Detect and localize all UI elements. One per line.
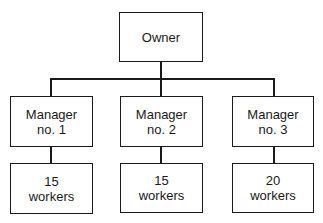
workers-3-connector bbox=[273, 146, 275, 164]
workers-3-count: 20 bbox=[266, 173, 280, 188]
workers-1-count: 15 bbox=[44, 174, 58, 189]
manager-1-number: no. 1 bbox=[37, 122, 66, 137]
manager-bus-line bbox=[50, 78, 274, 80]
workers-2-count: 15 bbox=[154, 173, 168, 188]
manager-3-box: Manager no. 3 bbox=[232, 96, 314, 147]
manager-2-connector bbox=[160, 78, 162, 97]
owner-box: Owner bbox=[119, 12, 203, 62]
manager-2-title: Manager bbox=[136, 107, 187, 122]
workers-2-connector bbox=[160, 146, 162, 164]
owner-connector bbox=[160, 61, 162, 79]
manager-3-number: no. 3 bbox=[259, 122, 288, 137]
workers-1-connector bbox=[50, 146, 52, 164]
manager-3-title: Manager bbox=[247, 107, 298, 122]
workers-1-label: workers bbox=[29, 189, 75, 204]
workers-1-box: 15 workers bbox=[10, 163, 93, 214]
manager-1-connector bbox=[50, 78, 52, 97]
workers-3-box: 20 workers bbox=[232, 163, 314, 213]
manager-2-box: Manager no. 2 bbox=[120, 96, 203, 147]
manager-1-box: Manager no. 1 bbox=[10, 96, 93, 147]
owner-label: Owner bbox=[142, 30, 180, 45]
manager-1-title: Manager bbox=[26, 107, 77, 122]
workers-2-box: 15 workers bbox=[120, 163, 203, 213]
workers-3-label: workers bbox=[250, 188, 296, 203]
manager-3-connector bbox=[273, 78, 275, 97]
workers-2-label: workers bbox=[139, 188, 185, 203]
manager-2-number: no. 2 bbox=[147, 122, 176, 137]
